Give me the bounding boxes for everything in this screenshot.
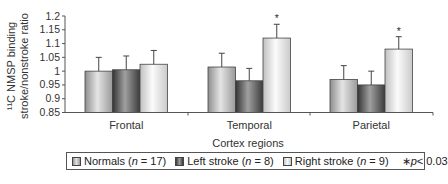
- bar-temporal-1: [236, 81, 264, 113]
- legend-label-normals: Normals (n = 17): [84, 155, 166, 167]
- bar-parietal-0: [330, 79, 358, 112]
- x-category-label: Parietal: [353, 119, 390, 131]
- legend-swatch-right-stroke: [283, 157, 292, 166]
- bar-parietal-1: [358, 85, 386, 113]
- x-category-label: Frontal: [109, 119, 143, 131]
- legend-item-normals: Normals (n = 17): [72, 155, 166, 167]
- legend-label-left-stroke: Left stroke (n = 8): [187, 155, 274, 167]
- legend: Normals (n = 17) Left stroke (n = 8) Rig…: [66, 152, 425, 170]
- y-tick-label: 0.9: [45, 92, 60, 104]
- y-tick-label: 1.1: [45, 37, 60, 49]
- y-tick-label: 1: [54, 65, 60, 77]
- legend-label-right-stroke: Right stroke (n = 9): [295, 155, 389, 167]
- bar-temporal-2: [263, 38, 291, 112]
- bar-frontal-2: [140, 64, 168, 112]
- y-tick-label: 1.05: [40, 51, 61, 63]
- x-axis-title: Cortex regions: [212, 137, 284, 149]
- y-tick-label: 0.95: [40, 78, 61, 90]
- bar-frontal-0: [85, 71, 113, 112]
- y-tick-label: 1.15: [40, 23, 61, 35]
- bar-frontal-1: [113, 70, 141, 113]
- significance-star: *: [397, 25, 401, 37]
- y-axis: 0.850.90.9511.051.11.151.2: [40, 10, 65, 119]
- bars: **: [85, 12, 413, 112]
- legend-item-right-stroke: Right stroke (n = 9): [283, 155, 389, 167]
- y-axis-title-line2: stroke/nonstroke ratio: [18, 13, 30, 119]
- legend-swatch-normals: [72, 157, 81, 166]
- legend-item-left-stroke: Left stroke (n = 8): [175, 155, 274, 167]
- x-category-label: Temporal: [227, 119, 272, 131]
- y-axis-title-line1: ¹¹C NMSP binding: [5, 22, 17, 110]
- y-tick-label: 0.85: [40, 106, 61, 118]
- significance-note: ∗p< 0.03: [402, 155, 448, 168]
- bar-parietal-2: [385, 49, 413, 112]
- y-tick-label: 1.2: [45, 10, 60, 22]
- significance-star: *: [275, 12, 279, 24]
- legend-swatch-left-stroke: [175, 157, 184, 166]
- x-axis: FrontalTemporalParietal: [65, 113, 433, 132]
- y-axis-title: ¹¹C NMSP binding stroke/nonstroke ratio: [5, 13, 30, 119]
- bar-temporal-0: [208, 67, 236, 112]
